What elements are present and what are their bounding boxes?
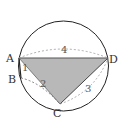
length-bc: 2 [40,78,46,89]
shaded-triangle-acd [19,58,108,104]
length-ad: 4 [61,44,67,55]
label-d: D [109,53,118,66]
label-b: B [8,73,16,86]
length-ab: 1 [22,62,28,73]
diagram-canvas: A B C D 4 1 2 3 [0,0,126,128]
length-cd: 3 [85,83,91,94]
label-a: A [5,52,15,65]
label-c: C [53,107,61,120]
